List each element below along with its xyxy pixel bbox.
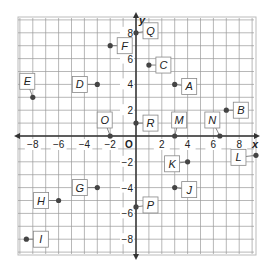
point-dot [108, 43, 113, 48]
point-label: M [175, 114, 185, 126]
x-tick-label: −8 [27, 139, 39, 150]
y-tick-label: −2 [122, 157, 134, 168]
point-label: C [159, 59, 167, 71]
x-tick-label: 4 [185, 139, 191, 150]
point-dot [146, 62, 151, 67]
point-dot [224, 108, 229, 113]
x-tick-label: 2 [159, 139, 165, 150]
point-dot [172, 185, 177, 190]
y-tick-label: −6 [122, 208, 134, 219]
point-dot [217, 133, 222, 138]
point-dot [108, 133, 113, 138]
coordinate-plane: −8−6−4−22468−8−6−4−22468Oxy QFCDAEBROMNL… [0, 0, 272, 271]
point-label: I [39, 233, 42, 245]
point-label: J [185, 184, 192, 196]
point-dot [24, 237, 29, 242]
point-label: R [147, 117, 155, 129]
y-tick-label: −4 [122, 183, 134, 194]
x-axis-label: x [251, 138, 259, 150]
point-label: Q [146, 25, 155, 37]
point-dot [133, 121, 138, 126]
point-label: N [208, 114, 216, 126]
point-dot [30, 95, 35, 100]
x-arrow-left-icon [14, 133, 20, 139]
point-dot [95, 185, 100, 190]
point-dot [95, 82, 100, 87]
point-label: A [185, 80, 193, 92]
point-dot [253, 153, 258, 158]
y-tick-label: 8 [127, 28, 133, 39]
point-label: G [76, 182, 85, 194]
point-dot [133, 204, 138, 209]
point-dot [56, 198, 61, 203]
y-tick-label: 6 [127, 54, 133, 65]
point-dot [172, 82, 177, 87]
y-arrow-down-icon [133, 254, 139, 260]
point-label: H [37, 195, 45, 207]
point-label: B [237, 104, 244, 116]
point-label: P [147, 199, 155, 211]
point-label: D [76, 78, 84, 90]
y-tick-label: 2 [127, 105, 133, 116]
point-label: E [24, 75, 32, 87]
y-tick-label: 4 [127, 79, 133, 90]
point-label: K [168, 158, 176, 170]
x-tick-label: −2 [104, 139, 116, 150]
point-label: O [100, 114, 109, 126]
x-tick-label: −4 [79, 139, 91, 150]
x-tick-label: 8 [236, 139, 242, 150]
point-dot [185, 159, 190, 164]
point-label: L [235, 151, 241, 163]
y-tick-label: −8 [122, 234, 134, 245]
origin-label: O [125, 139, 133, 150]
point-dot [133, 30, 138, 35]
x-tick-label: 6 [211, 139, 217, 150]
point-dot [172, 133, 177, 138]
x-tick-label: −6 [53, 139, 65, 150]
